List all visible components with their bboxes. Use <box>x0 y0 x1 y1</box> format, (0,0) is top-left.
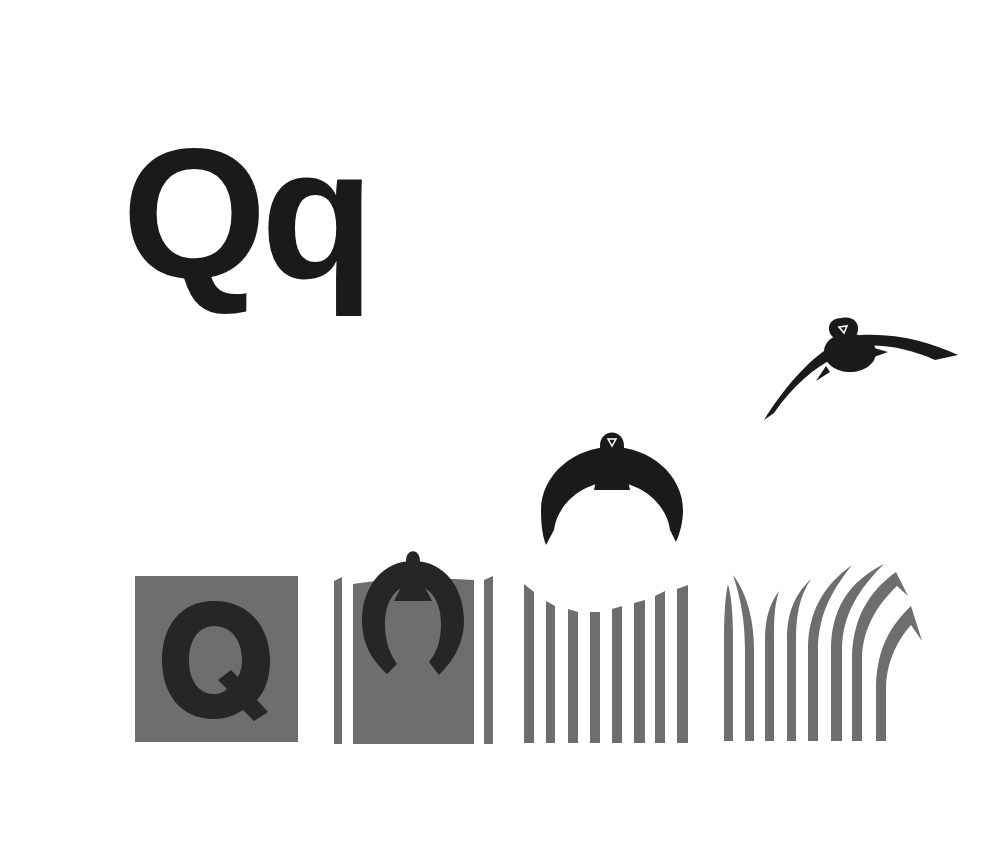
stage-3-bars <box>524 584 688 743</box>
stage-2-bird-forming <box>334 551 493 744</box>
q-to-swallow-illustration <box>0 0 1008 862</box>
stage-1-q-square <box>135 576 298 742</box>
flying-swallow <box>764 318 958 420</box>
swallow-tail-left <box>816 366 830 381</box>
swallow-tail-right <box>874 348 888 357</box>
stage-4-grass <box>724 564 922 741</box>
stage-3-bird-rising <box>541 433 683 546</box>
